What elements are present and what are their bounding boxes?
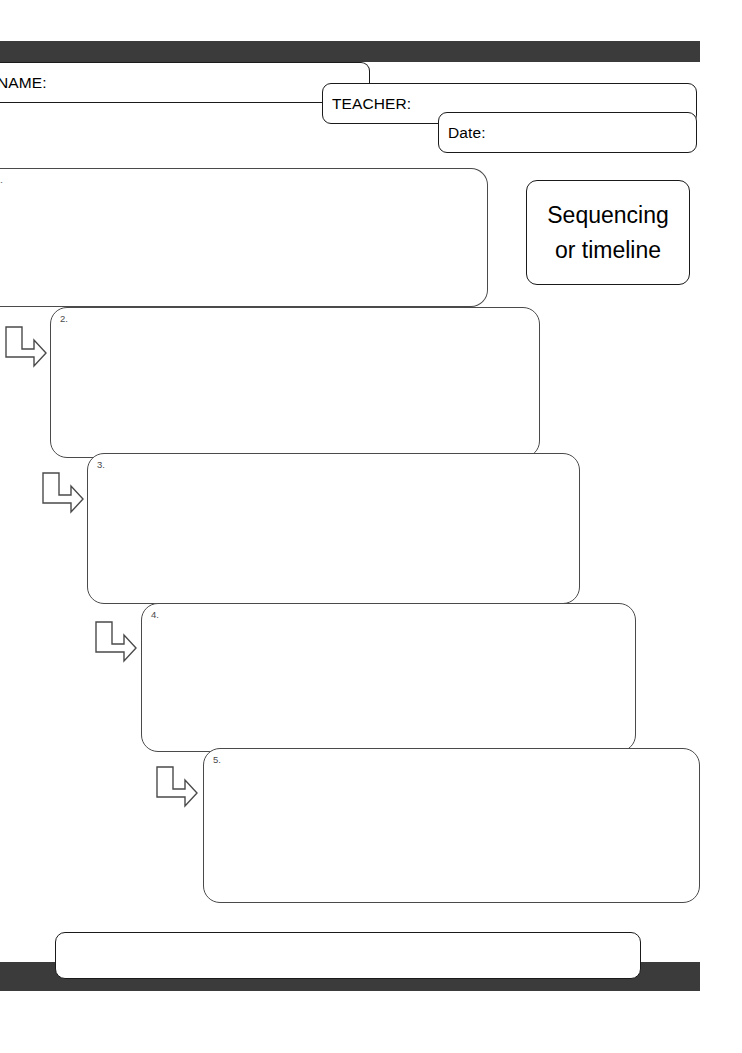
step-number-1: 1. bbox=[0, 175, 3, 185]
date-field[interactable]: Date: bbox=[438, 112, 697, 153]
teacher-field-label: TEACHER: bbox=[332, 96, 411, 112]
step-box-4[interactable]: 4. bbox=[141, 603, 636, 752]
step-number-4: 4. bbox=[151, 610, 159, 620]
top-accent-bar bbox=[0, 41, 700, 62]
step-number-5: 5. bbox=[213, 755, 221, 765]
date-field-label: Date: bbox=[448, 125, 486, 141]
elbow-arrow-icon-2 bbox=[41, 471, 85, 515]
worksheet-page: NAME: TEACHER: Date: Sequencing or timel… bbox=[0, 0, 742, 1053]
elbow-arrow-icon-1 bbox=[4, 325, 48, 369]
worksheet-title-card: Sequencing or timeline bbox=[526, 180, 690, 285]
step-box-1[interactable]: 1. bbox=[0, 168, 488, 307]
elbow-arrow-icon-3 bbox=[94, 620, 138, 664]
elbow-arrow-icon-4 bbox=[155, 765, 199, 809]
step-number-2: 2. bbox=[60, 314, 68, 324]
step-box-5[interactable]: 5. bbox=[203, 748, 700, 903]
footer-note-box[interactable] bbox=[55, 932, 641, 979]
step-box-3[interactable]: 3. bbox=[87, 453, 580, 604]
title-line-2: or timeline bbox=[555, 239, 661, 262]
name-field-label: NAME: bbox=[0, 75, 47, 91]
name-field[interactable]: NAME: bbox=[0, 62, 370, 103]
step-box-2[interactable]: 2. bbox=[50, 307, 540, 458]
title-line-1: Sequencing bbox=[547, 204, 669, 227]
step-number-3: 3. bbox=[97, 460, 105, 470]
